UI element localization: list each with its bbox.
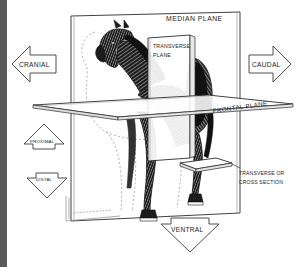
direction-arrow-distal-label: DISTAL xyxy=(36,177,53,182)
transverse-plane-label-line2: PLANE xyxy=(153,52,171,58)
transverse-plane-label-line1: TRANSVERSE xyxy=(153,43,191,49)
median-plane-label: MEDIAN PLANE xyxy=(166,15,223,22)
direction-arrow-cranial-label: CRANIAL xyxy=(19,61,50,68)
direction-arrow-ventral[interactable]: VENTRAL xyxy=(161,218,219,252)
direction-arrow-cranial[interactable]: CRANIAL xyxy=(12,46,56,82)
direction-arrow-proximal[interactable]: PROXIMAL xyxy=(24,124,64,149)
cross-section-label-line2: CROSS SECTION xyxy=(239,179,283,185)
direction-arrow-caudal[interactable]: CAUDAL xyxy=(249,46,291,82)
diagram-canvas: CRANIAL CAUDAL PROXIMAL DISTAL VENTRAL M… xyxy=(0,0,303,267)
direction-arrow-proximal-label: PROXIMAL xyxy=(30,139,55,144)
direction-arrow-ventral-label: VENTRAL xyxy=(171,226,204,233)
direction-arrow-distal[interactable]: DISTAL xyxy=(27,173,67,198)
anatomy-figure: CRANIAL CAUDAL PROXIMAL DISTAL VENTRAL M… xyxy=(0,0,303,267)
cross-section-label-line1: TRANSVERSE OR xyxy=(239,170,285,176)
direction-arrow-caudal-label: CAUDAL xyxy=(252,61,281,68)
